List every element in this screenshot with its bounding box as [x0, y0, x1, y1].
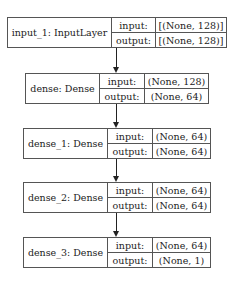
output-shape: (None, 64)	[153, 197, 210, 212]
node-name: dense_1: Dense	[24, 129, 108, 158]
node-name: dense: Dense	[26, 74, 100, 103]
input-label: input:	[108, 129, 152, 143]
edge-arrow-shaft	[116, 213, 117, 231]
edge-arrow-shaft	[116, 159, 117, 176]
output-shape: (None, 64)	[153, 143, 210, 158]
edge-arrow-shaft	[116, 48, 117, 67]
output-label: output:	[108, 197, 152, 212]
edge-arrow-shaft	[116, 104, 117, 122]
output-shape: (None, 1)	[153, 252, 210, 267]
input-label: input:	[112, 18, 155, 32]
input-label: input:	[108, 183, 152, 197]
node-name: dense_2: Dense	[24, 183, 108, 212]
input-shape: (None, 64)	[153, 129, 210, 143]
output-label: output:	[108, 143, 152, 158]
output-label: output:	[108, 252, 152, 267]
node-dense-3: dense_3: Dense input: output: (None, 64)…	[23, 237, 211, 268]
input-shape: (None, 64)	[153, 183, 210, 197]
input-label: input:	[100, 74, 144, 88]
input-shape: (None, 64)	[153, 238, 210, 252]
node-input-1: input_1: InputLayer input: output: [(Non…	[7, 17, 227, 48]
output-shape: [(None, 128)]	[156, 32, 226, 47]
output-label: output:	[100, 88, 144, 103]
input-shape: [(None, 128)]	[156, 18, 226, 32]
input-shape: (None, 128)	[145, 74, 208, 88]
output-shape: (None, 64)	[145, 88, 208, 103]
node-dense-1: dense_1: Dense input: output: (None, 64)…	[23, 128, 211, 159]
node-dense-2: dense_2: Dense input: output: (None, 64)…	[23, 182, 211, 213]
node-dense: dense: Dense input: output: (None, 128) …	[25, 73, 209, 104]
node-name: dense_3: Dense	[24, 238, 108, 267]
node-name: input_1: InputLayer	[8, 18, 112, 47]
input-label: input:	[108, 238, 152, 252]
output-label: output:	[112, 32, 155, 47]
